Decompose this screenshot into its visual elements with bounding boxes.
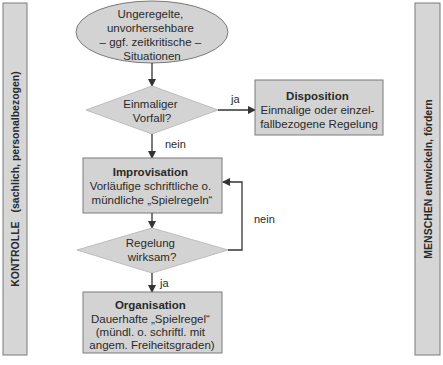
organisation-line-2: (mündl. o. schriftl. mit	[96, 326, 206, 338]
organisation-title: Organisation	[115, 299, 186, 311]
left-bar-sub-text: (sachlich, personalbezogen)	[9, 71, 21, 212]
right-side-bar: MENSCHEN entwickeln, fördern	[415, 3, 440, 355]
decision2-line-1: Regelung	[126, 237, 175, 249]
flowchart: KONTROLLE (sachlich, personalbezogen) ME…	[0, 0, 443, 365]
improvisation-line-1: Vorläufige schriftliche o.	[90, 180, 211, 192]
decision1-no-label: nein	[165, 138, 186, 150]
disposition-line-2: fallbezogene Regelung	[260, 118, 378, 130]
decision2-no-label: nein	[254, 213, 275, 225]
right-bar-text: MENSCHEN entwickeln, fördern	[422, 99, 434, 258]
decision2-yes-label: ja	[159, 277, 169, 289]
start-line-3: – ggf. zeitkritische –	[100, 36, 202, 48]
start-line-2: unvorhersehbare	[107, 22, 194, 34]
disposition-node: Disposition Einmalige oder einzel- fallb…	[255, 80, 383, 135]
start-node: Ungeregelte, unvorhersehbare – ggf. zeit…	[76, 1, 228, 63]
start-line-1: Ungeregelte,	[117, 8, 183, 20]
decision1-line-1: Einmaliger	[123, 98, 177, 110]
decision2-line-2: wirksam?	[127, 251, 177, 263]
arrow-decision2-no-loop	[223, 182, 242, 250]
organisation-node: Organisation Dauerhafte „Spielregel“ (mü…	[83, 292, 222, 353]
improvisation-node: Improvisation Vorläufige schriftliche o.…	[83, 158, 222, 213]
decision1-line-2: Vorfall?	[133, 112, 171, 124]
improvisation-title: Improvisation	[113, 166, 188, 178]
organisation-line-3: angem. Freiheitsgraden)	[89, 339, 214, 351]
decision2-node: Regelung wirksam?	[77, 228, 228, 273]
organisation-line-1: Dauerhafte „Spielregel“	[91, 313, 210, 325]
left-bar-main-text: KONTROLLE	[9, 221, 21, 286]
improvisation-line-2: mündliche „Spielregeln“	[92, 194, 213, 206]
disposition-line-1: Einmalige oder einzel-	[261, 104, 375, 116]
start-line-4: Situationen	[123, 50, 181, 62]
svg-text:KONTROLLE (sachlich, per: KONTROLLE (sachlich, personalbezogen)	[9, 71, 21, 286]
decision1-node: Einmaliger Vorfall?	[86, 86, 218, 134]
decision1-yes-label: ja	[230, 93, 240, 105]
disposition-title: Disposition	[286, 90, 349, 102]
left-side-bar: KONTROLLE (sachlich, personalbezogen)	[3, 3, 27, 355]
